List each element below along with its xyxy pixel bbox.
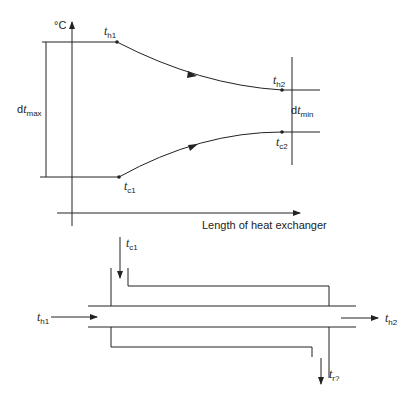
outer-shell-upper [128,268,329,306]
th2-label: th2 [273,74,285,89]
tc2-label: tc2 [276,136,288,151]
dtmax-label: dtmax [17,103,42,118]
cold-inlet-label: tc1 [126,237,138,252]
hot-curve [117,42,282,90]
th1-dot [115,40,119,44]
cold-curve-arrow-icon [188,144,198,151]
heat-exchanger-diagram [0,0,416,399]
cold-curve [119,132,282,177]
tc2-dot [280,130,284,134]
cold-outlet-label: tr? [329,368,339,383]
th1-label: th1 [104,25,116,40]
hot-outlet-label: th2 [385,312,397,327]
tc1-label: tc1 [124,180,136,195]
tc1-dot [117,175,121,179]
y-axis-unit-label: °C [54,20,66,31]
hot-inlet-label: th1 [37,311,49,326]
x-axis-label: Length of heat exchanger [202,220,327,231]
dtmin-label: dtmin [291,104,313,119]
outer-shell-lower [111,347,312,357]
